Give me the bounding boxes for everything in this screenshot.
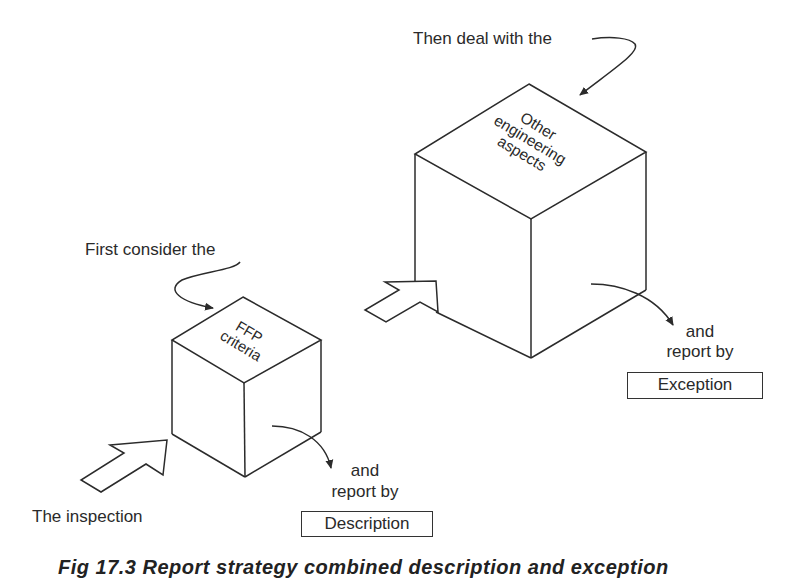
then-deal-curve-arrow-icon (580, 38, 636, 95)
figure-caption: Fig 17.3 Report strategy combined descri… (58, 556, 669, 579)
then-deal-label: Then deal with the (413, 29, 552, 48)
large-report-curve-arrow-icon (591, 284, 673, 325)
description-box: Description (301, 511, 433, 537)
first-consider-label: First consider the (85, 240, 215, 259)
first-consider-curve-arrow-icon (175, 262, 240, 308)
report-by-label-exception: report by (650, 342, 750, 361)
small-inspection-arrow-icon (81, 440, 167, 492)
small-report-curve-arrow-icon (272, 426, 331, 468)
the-inspection-label: The inspection (32, 507, 143, 526)
and-label-description: and (340, 461, 390, 480)
and-label-exception: and (675, 322, 725, 341)
exception-box: Exception (627, 372, 763, 399)
report-by-label-description: report by (315, 482, 415, 501)
large-inspection-arrow-icon (365, 281, 438, 322)
